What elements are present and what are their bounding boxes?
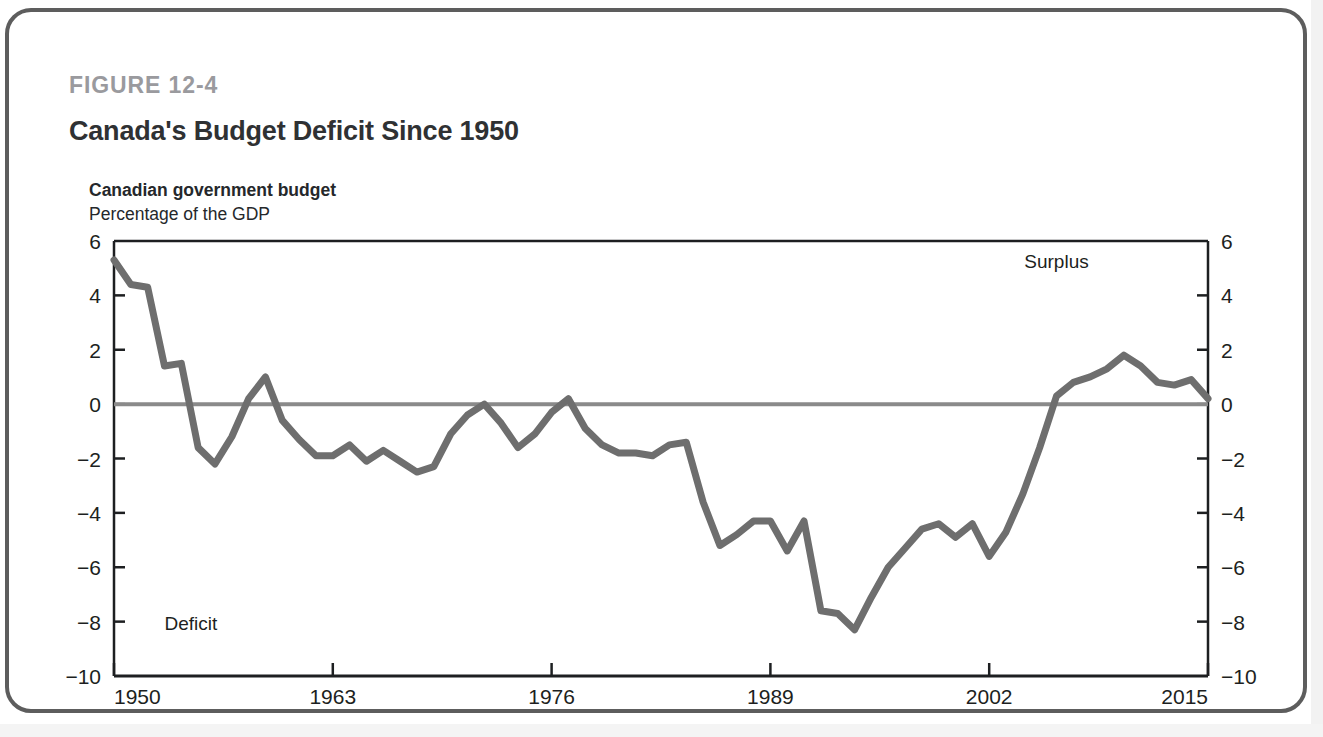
y-tick-label-right: −8: [1221, 611, 1245, 634]
x-tick-label: 2002: [966, 685, 1013, 708]
x-tick-label: 1989: [747, 685, 794, 708]
y-tick-label-right: −6: [1221, 556, 1245, 579]
x-tick-label: 1950: [114, 685, 161, 708]
y-tick-label-right: −10: [1221, 665, 1257, 688]
x-tick-label: 2015: [1161, 685, 1208, 708]
y-axis-labels-left: 6420−2−4−6−8−10: [65, 230, 101, 688]
axes-frame: [114, 241, 1208, 676]
budget-deficit-line-chart: 6420−2−4−6−8−10 6420−2−4−6−8−10 19501963…: [9, 12, 1311, 717]
axis-tick-marks: [114, 295, 1208, 676]
y-tick-label-left: −6: [77, 556, 101, 579]
x-axis-labels: 195019631976198920022015: [114, 685, 1208, 708]
figure-card: FIGURE 12-4 Canada's Budget Deficit Sinc…: [5, 8, 1307, 713]
y-tick-label-right: 2: [1221, 339, 1233, 362]
y-tick-label-left: 2: [89, 339, 101, 362]
budget-balance-series-line: [114, 260, 1208, 630]
y-tick-label-right: 6: [1221, 230, 1233, 253]
surplus-annotation-label: Surplus: [1024, 251, 1088, 272]
y-axis-labels-right: 6420−2−4−6−8−10: [1221, 230, 1257, 688]
y-tick-label-left: 6: [89, 230, 101, 253]
y-tick-label-left: −8: [77, 611, 101, 634]
page-bleed-bottom-edge: [0, 724, 1323, 737]
y-tick-label-right: −2: [1221, 448, 1245, 471]
y-tick-label-left: 0: [89, 393, 101, 416]
y-tick-label-right: 0: [1221, 393, 1233, 416]
y-tick-label-left: −2: [77, 448, 101, 471]
y-tick-label-left: −10: [65, 665, 101, 688]
y-tick-label-right: −4: [1221, 502, 1245, 525]
x-tick-label: 1976: [528, 685, 575, 708]
x-tick-label: 1963: [309, 685, 356, 708]
chart-plot-area: 6420−2−4−6−8−10 6420−2−4−6−8−10 19501963…: [9, 12, 1311, 717]
page-bleed-right-edge: [1311, 0, 1323, 737]
y-tick-label-left: −4: [77, 502, 101, 525]
y-tick-label-left: 4: [89, 284, 101, 307]
y-tick-label-right: 4: [1221, 284, 1233, 307]
deficit-annotation-label: Deficit: [164, 613, 218, 634]
